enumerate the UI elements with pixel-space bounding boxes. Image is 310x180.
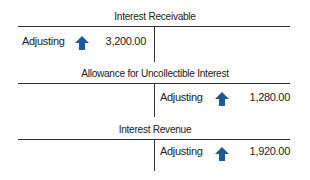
up-arrow-icon — [215, 147, 229, 161]
entry-label: Adjusting — [160, 145, 203, 157]
t-account-vertical-line — [154, 139, 155, 171]
t-account-interest-revenue: Interest Revenue Adjusting 1,920.00 — [0, 0, 310, 180]
entry-amount: 1,920.00 — [230, 145, 290, 157]
account-title: Interest Revenue — [12, 123, 297, 135]
